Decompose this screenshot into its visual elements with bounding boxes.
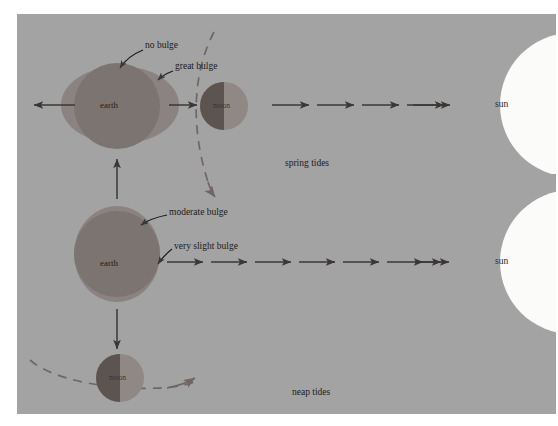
- moon-label-top: moon: [213, 102, 230, 110]
- callout-label-great-bulge: great bulge: [175, 62, 217, 72]
- sun-label-top: sun: [495, 100, 508, 110]
- caption-neap-tides: neap tides: [292, 388, 330, 398]
- moon-label-bottom: moon: [109, 374, 126, 382]
- callout-label-no-bulge: no bulge: [145, 41, 178, 51]
- sun-bottom-shape: [500, 190, 556, 334]
- earth-middle-shape: [74, 206, 160, 302]
- earth-label-middle: earth: [100, 259, 118, 268]
- earth-top-shape: [61, 63, 179, 149]
- sun-label-bottom: sun: [495, 257, 508, 267]
- callout-label-moderate-bulge: moderate bulge: [169, 208, 228, 218]
- callout-leader-great-bulge: [158, 71, 173, 80]
- diagram-panel: no bulge great bulge earth moon sun spri…: [17, 14, 556, 414]
- callout-label-very-slight-bulge: very slight bulge: [174, 242, 238, 252]
- tides-diagram-figure: no bulge great bulge earth moon sun spri…: [0, 0, 558, 426]
- sun-top-shape: [500, 33, 556, 177]
- earth-label-top: earth: [100, 101, 118, 110]
- caption-spring-tides: spring tides: [285, 159, 329, 169]
- diagram-canvas: [17, 14, 556, 414]
